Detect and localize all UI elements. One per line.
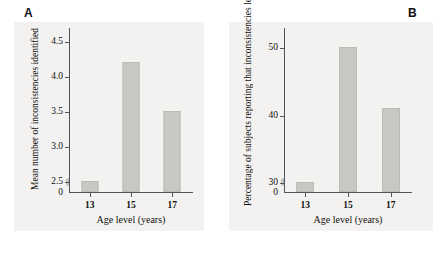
panel-a-bar-13 [81, 181, 98, 192]
panel-b-bar-17 [382, 108, 400, 192]
panel-b-y-tick-label: 50 [269, 43, 279, 53]
panel-b-axis-break-mark: // [279, 175, 291, 187]
panel-a-y-axis-label: Mean number of inconsistencies identifie… [30, 30, 41, 190]
panel-b-y-tick-label: 0 [273, 188, 278, 198]
panel-b-y-axis [284, 28, 285, 193]
panel-a-x-tick-label: 15 [126, 201, 136, 211]
panel-a-y-tick [65, 147, 69, 148]
panel-b-x-tick-label: 17 [386, 201, 396, 211]
panel-a-y-tick [65, 112, 69, 113]
panel-b-plot-area: 0304050//131517 [284, 28, 412, 193]
panel-b-bar-15 [339, 47, 357, 192]
panel-a-x-tick [172, 193, 173, 197]
panel-b-x-tick-label: 13 [301, 201, 311, 211]
panel-a-x-tick-label: 17 [168, 201, 178, 211]
panel-a-axis-break-mark: // [64, 175, 76, 187]
panel-a-y-tick-label: 4.0 [51, 72, 63, 82]
panel-label-b: B [408, 6, 417, 20]
panel-b-bar-13 [296, 182, 314, 192]
panel-a-x-axis-label: Age level (years) [97, 214, 166, 225]
panel-a-y-tick-label: 2.5 [51, 178, 63, 188]
panel-b-y-tick [280, 48, 284, 49]
panel-b-x-axis-label: Age level (years) [314, 214, 383, 225]
panel-a-y-tick-label: 0 [58, 188, 63, 198]
panel-a-y-tick [65, 77, 69, 78]
panel-a-y-axis [69, 28, 70, 193]
panel-a-x-tick [90, 193, 91, 197]
panel-a-y-tick-label: 3.0 [51, 143, 63, 153]
panel-b-y-tick [280, 116, 284, 117]
panel-b-y-tick-label: 30 [269, 178, 279, 188]
panel-b-x-tick-label: 15 [343, 201, 353, 211]
panel-a-x-tick-label: 13 [85, 201, 95, 211]
panel-b-x-tick [348, 193, 349, 197]
panel-b-y-axis-label: Percentage of subjects reporting that in… [243, 28, 254, 206]
panel-a-plot-area: 02.53.03.54.04.5//131517 [69, 28, 193, 193]
panel-a-y-tick-label: 4.5 [51, 37, 63, 47]
panel-b-x-tick [305, 193, 306, 197]
panel-a-bar-17 [164, 111, 181, 192]
panel-b-y-tick-label: 40 [269, 111, 279, 121]
figure: A B Mean number of inconsistencies ident… [0, 0, 445, 256]
panel-a-bar-15 [123, 62, 140, 192]
panel-a-y-tick [65, 42, 69, 43]
panel-a-y-tick-label: 3.5 [51, 108, 63, 118]
panel-a-x-tick [131, 193, 132, 197]
panel-b-x-tick [391, 193, 392, 197]
panel-label-a: A [24, 6, 33, 20]
